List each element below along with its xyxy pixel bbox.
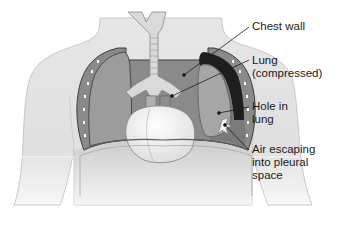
label-lung-compressed: Lung (compressed) — [252, 54, 322, 80]
label-lung-compressed-line-2: (compressed) — [252, 67, 322, 80]
pneumothorax-diagram: Chest wall Lung (compressed) Hole in lun… — [0, 0, 338, 226]
label-chest-wall: Chest wall — [252, 20, 305, 33]
label-air-escaping-line-1: Air escaping — [252, 143, 315, 156]
label-air-escaping-line-3: space — [252, 169, 315, 182]
label-hole-in-lung-line-2: lung — [252, 113, 288, 126]
label-hole-in-lung-line-1: Hole in — [252, 100, 288, 113]
label-chest-wall-line-1: Chest wall — [252, 20, 305, 33]
label-air-escaping: Air escaping into pleural space — [252, 143, 315, 182]
label-air-escaping-line-2: into pleural — [252, 156, 315, 169]
label-hole-in-lung: Hole in lung — [252, 100, 288, 126]
heart — [126, 106, 195, 163]
label-lung-compressed-line-1: Lung — [252, 54, 322, 67]
